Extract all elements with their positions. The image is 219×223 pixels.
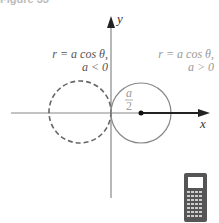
- x-axis-label: x: [200, 117, 206, 130]
- dashed-circle-a-negative: [49, 81, 111, 143]
- polar-diagram: [0, 0, 219, 223]
- graphing-calculator-icon: [184, 173, 207, 222]
- radius-denominator: 2: [126, 100, 132, 113]
- left-curve-condition: a < 0: [28, 61, 108, 74]
- y-axis-label: y: [117, 12, 123, 25]
- right-curve-label: r = a cos θ, a > 0: [124, 48, 214, 74]
- left-curve-label: r = a cos θ, a < 0: [28, 48, 108, 74]
- y-axis-arrow-icon: [107, 16, 115, 28]
- right-curve-condition: a > 0: [124, 61, 214, 74]
- center-point: [139, 111, 144, 116]
